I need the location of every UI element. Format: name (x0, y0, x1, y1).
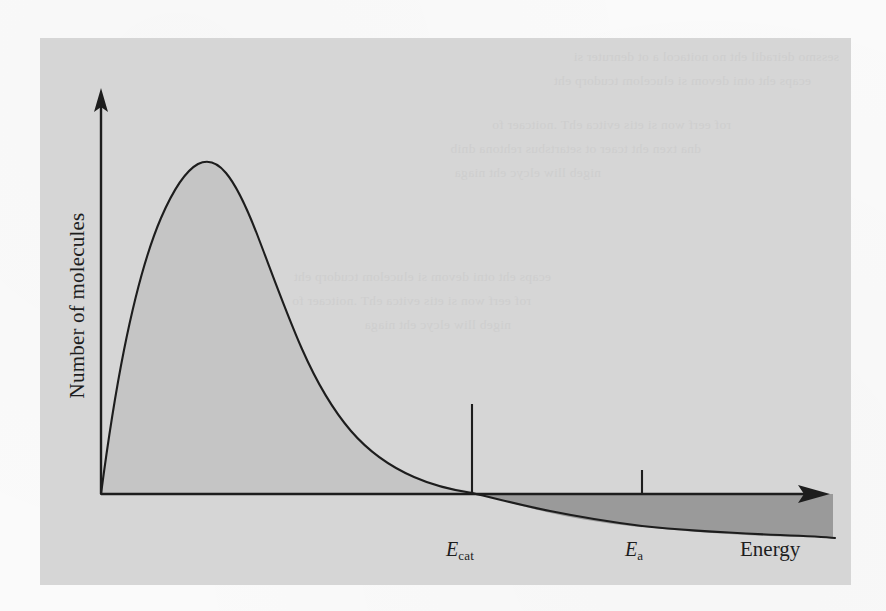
ecat-tick-label: Ecat (446, 538, 474, 564)
ea-tick-label: Ea (625, 538, 643, 564)
y-axis-label: Number of molecules (65, 213, 89, 399)
ea-subscript: a (637, 548, 643, 563)
figure-panel: sessmo deiradil eht no noitacol a ot den… (40, 38, 851, 585)
distribution-plot (40, 38, 851, 585)
ecat-subscript: cat (458, 548, 474, 563)
y-axis-label-wrapper: Number of molecules (65, 191, 90, 421)
figure-page: sessmo deiradil eht no noitacol a ot den… (0, 0, 886, 611)
x-axis-label: Energy (740, 537, 800, 562)
ecat-symbol: E (446, 538, 458, 560)
ea-symbol: E (625, 538, 637, 560)
area-below-ecat (101, 162, 472, 494)
